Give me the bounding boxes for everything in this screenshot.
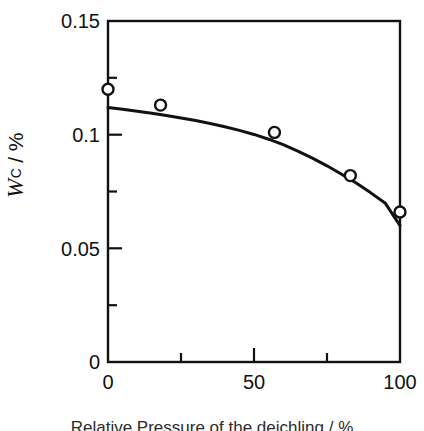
data-point bbox=[395, 206, 406, 217]
fitted-curve bbox=[108, 107, 400, 225]
data-point bbox=[345, 170, 356, 181]
data-point-markers bbox=[103, 84, 406, 218]
data-point bbox=[103, 84, 114, 95]
data-point bbox=[269, 127, 280, 138]
y-minor-ticks bbox=[108, 78, 117, 305]
plot-area bbox=[0, 0, 424, 431]
chart-figure: WC/% 0.15 0.1 0.05 0 0 50 100 bbox=[0, 0, 424, 431]
figure-caption: Relative Pressure of the deichling / % bbox=[0, 418, 424, 431]
data-point bbox=[155, 100, 166, 111]
plot-frame bbox=[108, 21, 400, 362]
